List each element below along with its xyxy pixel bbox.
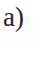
figure-panel: a) (0, 0, 40, 66)
panel-label: a) (3, 2, 24, 33)
panel-body-empty-area (0, 36, 40, 66)
